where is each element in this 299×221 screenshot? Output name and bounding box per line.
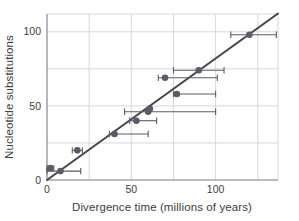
data-point: [47, 165, 54, 172]
data-point: [133, 117, 140, 124]
y-axis-title: Nucleotide substitutions: [3, 35, 15, 159]
data-point: [74, 147, 81, 154]
data-point: [174, 91, 181, 98]
y-tick-label: 50: [29, 100, 41, 112]
data-point: [57, 168, 64, 175]
data-point: [111, 131, 118, 138]
data-point: [162, 74, 169, 81]
scatter-plot-figure: 050100 050100 Divergence time (millions …: [0, 0, 299, 221]
x-tick-label: 0: [44, 183, 50, 195]
data-point: [195, 67, 202, 74]
data-point: [147, 106, 154, 113]
x-tick-label: 100: [207, 183, 225, 195]
y-tick-label: 0: [35, 174, 41, 186]
x-tick-label: 50: [125, 183, 137, 195]
data-point: [246, 31, 253, 38]
chart-canvas: 050100 050100 Divergence time (millions …: [0, 0, 299, 221]
x-axis-title: Divergence time (millions of years): [72, 201, 252, 213]
y-tick-label: 100: [23, 25, 41, 37]
